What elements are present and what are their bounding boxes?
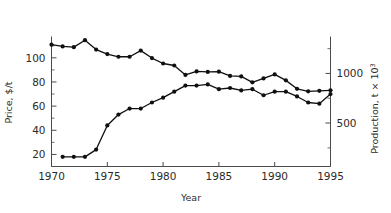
data-point	[217, 87, 221, 91]
chart-container: 197019751980198519901995 20406080100 500…	[0, 0, 391, 213]
data-point	[194, 83, 198, 87]
data-point	[161, 61, 165, 65]
data-series-group	[49, 38, 332, 159]
data-point	[250, 80, 254, 84]
data-point	[61, 44, 65, 48]
y2-tick-label-1000: 1000	[337, 67, 364, 79]
data-point	[217, 70, 221, 74]
x-tick-label-1970: 1970	[38, 170, 65, 182]
y-axis-ticks-right: 5001000	[326, 49, 364, 148]
data-point	[206, 70, 210, 74]
data-point	[273, 90, 277, 94]
x-axis-title: Year	[180, 192, 201, 203]
data-point	[61, 155, 65, 159]
data-point	[284, 78, 288, 82]
data-point	[228, 86, 232, 90]
data-point	[273, 72, 277, 76]
data-point	[194, 69, 198, 73]
data-point	[183, 83, 187, 87]
y-tick-label-80: 80	[32, 76, 45, 88]
x-tick-label-1995: 1995	[317, 170, 344, 182]
data-point	[94, 48, 98, 52]
data-point	[116, 112, 120, 116]
data-point	[172, 63, 176, 67]
data-point	[239, 88, 243, 92]
x-tick-label-1980: 1980	[150, 170, 177, 182]
data-point	[206, 82, 210, 86]
x-tick-label-1975: 1975	[94, 170, 121, 182]
y-axis-title-right-exponent: 3	[369, 63, 377, 67]
x-tick-label-1990: 1990	[261, 170, 288, 182]
series-line-0	[63, 84, 331, 156]
data-point	[295, 94, 299, 98]
data-point	[183, 73, 187, 77]
data-point	[150, 100, 154, 104]
data-point	[72, 155, 76, 159]
data-point	[261, 76, 265, 80]
x-tick-label-1985: 1985	[206, 170, 233, 182]
data-point	[49, 43, 53, 47]
y-tick-label-60: 60	[32, 100, 45, 112]
y-axis-title-right: Production, t × 103	[369, 63, 381, 154]
line-chart: 197019751980198519901995 20406080100 500…	[0, 0, 391, 213]
data-point	[83, 38, 87, 42]
data-point	[306, 89, 310, 93]
y-tick-label-100: 100	[25, 52, 45, 64]
y-axis-title-left: Price, $/t	[3, 81, 14, 123]
y-tick-label-20: 20	[32, 148, 45, 160]
y-axis-title-right-base: Production, t × 10	[369, 67, 380, 153]
data-point	[295, 87, 299, 91]
data-point	[239, 74, 243, 78]
data-point	[328, 88, 332, 92]
data-point	[161, 96, 165, 100]
data-point	[139, 49, 143, 53]
data-point	[306, 100, 310, 104]
y2-tick-label-500: 500	[337, 117, 357, 129]
data-point	[72, 45, 76, 49]
data-point	[83, 155, 87, 159]
data-point	[116, 55, 120, 59]
data-point	[328, 92, 332, 96]
x-axis-ticks: 197019751980198519901995	[38, 162, 344, 182]
data-point	[261, 93, 265, 97]
data-point	[172, 90, 176, 94]
data-point	[250, 87, 254, 91]
series-price	[61, 82, 333, 159]
data-point	[139, 106, 143, 110]
data-point	[228, 74, 232, 78]
data-point	[284, 90, 288, 94]
data-point	[105, 52, 109, 56]
data-point	[317, 89, 321, 93]
data-point	[105, 123, 109, 127]
series-line-1	[52, 40, 331, 91]
data-point	[317, 102, 321, 106]
axes	[52, 37, 331, 167]
data-point	[150, 56, 154, 60]
y-tick-label-40: 40	[32, 124, 45, 136]
data-point	[128, 55, 132, 59]
data-point	[94, 147, 98, 151]
data-point	[128, 106, 132, 110]
